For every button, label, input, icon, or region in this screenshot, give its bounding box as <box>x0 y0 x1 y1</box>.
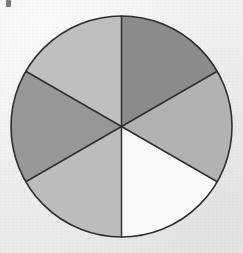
sector-circle-diagram <box>0 0 243 253</box>
scan-speck-artifact <box>6 0 11 7</box>
figure-canvas <box>0 0 243 253</box>
